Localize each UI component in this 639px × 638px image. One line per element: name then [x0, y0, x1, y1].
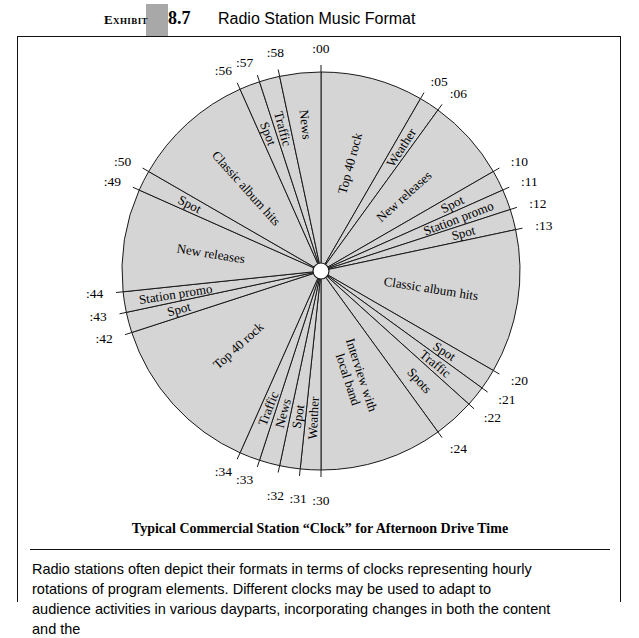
tick-line — [278, 466, 279, 473]
tick-line — [299, 469, 300, 476]
exhibit-panel: Top 40 rockWeatherNew releasesSpotStatio… — [17, 36, 621, 602]
section-divider — [30, 549, 610, 550]
tick-line — [125, 332, 132, 334]
time-tick-label: :31 — [289, 491, 306, 506]
tick-line — [257, 75, 259, 82]
wedge-label: News — [297, 109, 315, 140]
time-tick-label: :22 — [484, 410, 501, 425]
tick-line — [493, 371, 499, 375]
time-tick-label: :13 — [535, 218, 553, 233]
body-paragraph: Radio stations often depict their format… — [32, 559, 552, 638]
time-tick-label: :34 — [215, 464, 233, 479]
tick-line — [120, 312, 127, 313]
time-tick-label: :32 — [267, 488, 284, 503]
tick-line — [116, 292, 123, 293]
exhibit-label: Exhibit — [104, 12, 148, 28]
exhibit-number: 8.7 — [168, 8, 191, 29]
tick-line — [133, 187, 139, 190]
tick-line — [237, 83, 240, 89]
tick-line — [278, 70, 279, 77]
exhibit-title: Radio Station Music Format — [218, 10, 415, 28]
tick-line — [438, 432, 442, 438]
tick-line — [510, 207, 517, 209]
time-tick-label: :30 — [312, 493, 330, 508]
time-tick-label: :12 — [529, 196, 546, 211]
time-tick-label: :50 — [114, 154, 132, 169]
tick-line — [237, 453, 240, 459]
time-tick-label: :56 — [215, 63, 233, 78]
time-tick-label: :11 — [521, 174, 538, 189]
time-tick-label: :05 — [431, 74, 449, 89]
tick-line — [482, 388, 488, 392]
time-tick-label: :57 — [236, 55, 254, 70]
tick-line — [516, 228, 523, 229]
tick-line — [469, 404, 474, 409]
time-tick-label: :20 — [511, 373, 529, 388]
time-tick-label: :10 — [511, 154, 529, 169]
time-tick-label: :06 — [450, 86, 468, 101]
tick-line — [503, 187, 509, 190]
time-tick-label: :43 — [90, 309, 108, 324]
time-tick-label: :00 — [312, 41, 330, 56]
time-tick-label: :42 — [95, 331, 112, 346]
exhibit-header: Exhibit 8.7 Radio Station Music Format — [0, 4, 639, 34]
chart-caption: Typical Commercial Station “Clock” for A… — [18, 521, 622, 537]
tick-line — [257, 460, 259, 467]
time-tick-label: :33 — [236, 472, 254, 487]
clock-pie-svg: Top 40 rockWeatherNew releasesSpotStatio… — [18, 37, 622, 517]
radio-clock-chart: Top 40 rockWeatherNew releasesSpotStatio… — [18, 37, 622, 517]
time-tick-label: :49 — [104, 174, 122, 189]
tick-line — [421, 93, 425, 99]
tick-line — [493, 168, 499, 172]
time-tick-label: :21 — [498, 392, 515, 407]
tick-line — [438, 104, 442, 110]
time-tick-label: :44 — [86, 286, 104, 301]
wedge-label: Weather — [305, 396, 322, 440]
time-tick-label: :24 — [450, 441, 468, 456]
time-tick-label: :58 — [267, 45, 285, 60]
tick-line — [143, 168, 149, 172]
clock-center-hub — [313, 263, 329, 279]
